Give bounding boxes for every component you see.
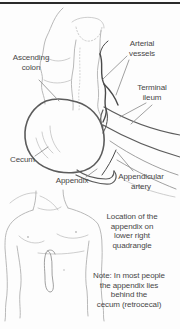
label-appendix: Appendix bbox=[49, 176, 95, 186]
caption-retrocecal-note: Note: In most people the appendix lies b… bbox=[79, 271, 179, 309]
label-ascending-colon: Ascending colon bbox=[4, 53, 58, 72]
label-terminal-ileum: Terminal ileum bbox=[126, 83, 178, 102]
page: Ascending colon Arterial vessels Termina… bbox=[0, 0, 180, 329]
leader-lines bbox=[35, 56, 152, 177]
arterial-vessels-drawing bbox=[100, 41, 118, 175]
label-appendicular-artery: Appendicular artery bbox=[109, 172, 173, 191]
label-arterial-vessels: Arterial vessels bbox=[117, 39, 167, 58]
appendix-location-marker bbox=[44, 250, 55, 292]
caption-appendix-location: Location of the appendix on lower right … bbox=[91, 212, 173, 250]
label-cecum: Cecum bbox=[10, 155, 50, 165]
